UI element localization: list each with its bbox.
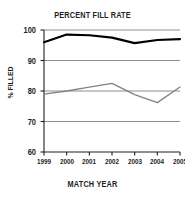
x-tick-label-2001: 2001: [79, 158, 99, 165]
x-tick-label-2003: 2003: [125, 158, 145, 165]
y-tick-label-80: 80: [13, 86, 36, 96]
gridlines-group: [44, 30, 180, 122]
x-tick-label-2004: 2004: [147, 158, 167, 165]
x-tick-label-1999: 1999: [34, 158, 54, 165]
y-tick-label-100: 100: [13, 25, 36, 35]
y-tick-label-90: 90: [13, 56, 36, 66]
series-line-upper-series: [44, 35, 180, 44]
x-tick-label-2005: 2005: [170, 158, 185, 165]
y-tick-label-70: 70: [13, 117, 36, 127]
series-line-lower-series: [44, 83, 180, 102]
x-tick-label-2000: 2000: [57, 158, 77, 165]
chart-figure: PERCENT FILL RATE % FILLED MATCH YEAR 60…: [0, 0, 185, 203]
x-tick-label-2002: 2002: [102, 158, 122, 165]
data-series-group: [44, 35, 180, 103]
axis-ticks-group: [41, 30, 181, 156]
y-tick-label-60: 60: [13, 147, 36, 157]
